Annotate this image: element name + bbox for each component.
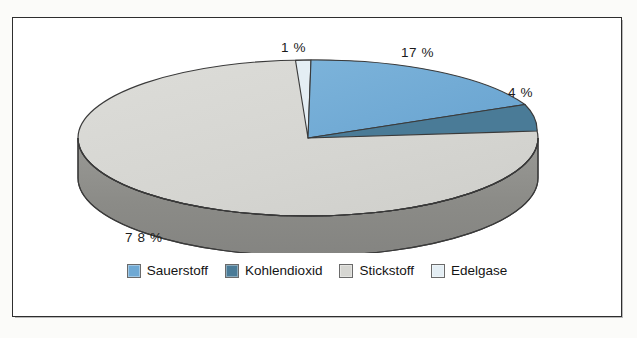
legend-item-stickstoff[interactable]: Stickstoff [339, 263, 414, 278]
data-label-kohlendioxid: 4 % [508, 85, 533, 100]
legend-swatch-kohlendioxid [225, 264, 239, 278]
legend-label-stickstoff: Stickstoff [359, 263, 414, 278]
data-label-sauerstoff: 17 % [401, 45, 434, 60]
legend-label-edelgase: Edelgase [451, 263, 507, 278]
legend-swatch-sauerstoff [127, 264, 141, 278]
chart-frame: 1 % 17 % 4 % 7 8 % Sauerstoff Kohlendiox… [12, 17, 622, 317]
legend-item-sauerstoff[interactable]: Sauerstoff [127, 263, 208, 278]
chart-root: 1 % 17 % 4 % 7 8 % Sauerstoff Kohlendiox… [0, 0, 637, 338]
data-label-edelgase: 1 % [281, 40, 306, 55]
data-label-stickstoff: 7 8 % [125, 230, 163, 245]
legend-swatch-edelgase [431, 264, 445, 278]
legend-item-kohlendioxid[interactable]: Kohlendioxid [225, 263, 322, 278]
pie-chart-3d [73, 33, 543, 253]
pie-top-surface [78, 60, 538, 216]
plot-area: 1 % 17 % 4 % 7 8 % Sauerstoff Kohlendiox… [13, 18, 621, 316]
legend-item-edelgase[interactable]: Edelgase [431, 263, 507, 278]
legend-swatch-stickstoff [339, 264, 353, 278]
legend-label-sauerstoff: Sauerstoff [147, 263, 208, 278]
legend-label-kohlendioxid: Kohlendioxid [245, 263, 322, 278]
chart-legend: Sauerstoff Kohlendioxid Stickstoff Edelg… [13, 263, 621, 278]
